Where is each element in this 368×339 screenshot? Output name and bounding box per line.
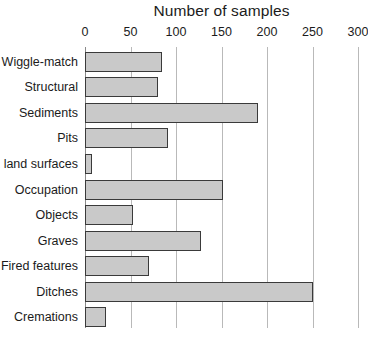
bar bbox=[85, 205, 133, 225]
x-tick-label-250: 250 bbox=[302, 25, 323, 39]
bar-row bbox=[85, 52, 358, 72]
bar-row bbox=[85, 256, 358, 276]
x-tick-label-150: 150 bbox=[211, 25, 232, 39]
bar bbox=[85, 52, 162, 72]
category-label: Fired features bbox=[1, 260, 78, 273]
gridline-300 bbox=[358, 47, 359, 328]
bar-row bbox=[85, 128, 358, 148]
category-label: Sediments bbox=[19, 107, 78, 120]
x-tick-label-50: 50 bbox=[124, 25, 138, 39]
x-tick-label-100: 100 bbox=[166, 25, 187, 39]
bar bbox=[85, 256, 149, 276]
bar bbox=[85, 154, 92, 174]
x-tick-label-0: 0 bbox=[82, 25, 89, 39]
bar bbox=[85, 128, 168, 148]
category-label: Wiggle-match bbox=[2, 56, 78, 69]
category-label: Graves bbox=[38, 235, 78, 248]
bar-row bbox=[85, 180, 358, 200]
category-label: Structural bbox=[25, 81, 79, 94]
category-label: Occupation bbox=[15, 184, 78, 197]
bar-row bbox=[85, 231, 358, 251]
bar bbox=[85, 282, 313, 302]
bar bbox=[85, 77, 158, 97]
y-axis-category-labels: Wiggle-matchStructuralSedimentsPitsOld l… bbox=[0, 47, 82, 328]
category-label: Old land surfaces bbox=[0, 158, 78, 171]
bar-row bbox=[85, 282, 358, 302]
bar bbox=[85, 231, 201, 251]
x-tick-label-300: 300 bbox=[348, 25, 368, 39]
category-label: Cremations bbox=[14, 311, 78, 324]
x-tick-label-200: 200 bbox=[257, 25, 278, 39]
bar-row bbox=[85, 307, 358, 327]
bar bbox=[85, 103, 258, 123]
category-label: Objects bbox=[36, 209, 78, 222]
bar-row bbox=[85, 154, 358, 174]
x-axis-tick-labels: 050100150200250300 bbox=[0, 25, 358, 41]
bar-row bbox=[85, 103, 358, 123]
bar-row bbox=[85, 77, 358, 97]
chart-title: Number of samples bbox=[85, 2, 358, 20]
bar bbox=[85, 180, 223, 200]
category-label: Pits bbox=[57, 132, 78, 145]
plot-area bbox=[85, 47, 358, 328]
bar-row bbox=[85, 205, 358, 225]
bar bbox=[85, 307, 106, 327]
category-label: Ditches bbox=[36, 286, 78, 299]
bars-layer bbox=[85, 47, 358, 328]
